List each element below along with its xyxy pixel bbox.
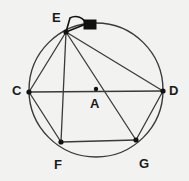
chord-G-D: [136, 91, 163, 140]
chord-E-D: [66, 32, 163, 91]
tangent-block-icon: [84, 20, 96, 29]
vertex-dot-E: [63, 29, 68, 34]
point-label-D: D: [169, 84, 178, 97]
point-label-A: A: [90, 97, 99, 110]
chord-E-F: [61, 32, 66, 142]
geometry-figure: C D E F G A: [0, 0, 189, 181]
vertex-dot-A: [94, 87, 98, 91]
chord-E-G: [66, 32, 136, 140]
point-label-G: G: [139, 157, 149, 170]
point-label-E: E: [52, 11, 61, 24]
vertex-dot-G: [133, 137, 138, 142]
point-label-F: F: [54, 158, 62, 171]
vertex-dot-D: [160, 88, 165, 93]
vertex-dot-F: [58, 139, 63, 144]
diagram-canvas: [0, 0, 189, 181]
vertex-dot-C: [26, 89, 31, 94]
vertex-dots-group: [26, 29, 165, 144]
point-label-C: C: [12, 84, 21, 97]
chord-F-G: [61, 140, 136, 142]
